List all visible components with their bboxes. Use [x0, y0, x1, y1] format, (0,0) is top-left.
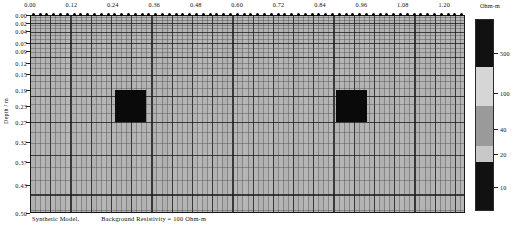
mesh-line-vertical [151, 15, 152, 213]
electrode-dot [399, 13, 402, 16]
mesh-line-vertical [293, 15, 294, 213]
mesh-cell-column [293, 15, 298, 213]
mesh-cell-column [182, 15, 187, 213]
mesh-line-vertical [379, 15, 380, 213]
mesh-line-vertical [50, 15, 51, 213]
mesh-line-vertical [384, 15, 385, 213]
mesh-line-vertical [187, 15, 188, 213]
mesh-line-vertical [96, 15, 97, 213]
mesh-line-vertical [217, 15, 218, 213]
mesh-cell-column [404, 15, 409, 213]
mesh-cell-column [460, 15, 465, 213]
mesh-cell-column [278, 15, 283, 213]
electrode-dot [66, 13, 69, 16]
mesh-cell-column [222, 15, 227, 213]
mesh-cell-column [207, 15, 212, 213]
mesh-line-vertical [106, 15, 107, 213]
mesh-cell-column [253, 15, 258, 213]
mesh-cell-column [81, 15, 86, 213]
colorbar-segment [476, 67, 493, 107]
electrode-dot [413, 13, 416, 16]
colorbar-tick-mark [494, 53, 498, 54]
mesh-cell-column [268, 15, 273, 213]
colorbar-segment [476, 20, 493, 67]
mesh-cell-column [192, 15, 197, 213]
x-axis-tick-labels: 0.000.120.240.360.480.600.720.840.961.08… [0, 0, 514, 14]
mesh-cell-column [91, 15, 96, 213]
electrode-dot [297, 13, 300, 16]
mesh-cell-column [96, 15, 101, 213]
mesh-line-vertical [440, 15, 441, 213]
mesh-line-vertical [278, 15, 279, 213]
mesh-line-vertical [207, 15, 208, 213]
mesh-cell-column [419, 15, 424, 213]
x-tick-label: 0.36 [148, 1, 160, 8]
mesh-cell-column [156, 15, 161, 213]
mesh-line-vertical [81, 15, 82, 213]
mesh-line-horizontal [30, 122, 465, 123]
mesh-cell-column [258, 15, 263, 213]
mesh-line-horizontal [30, 23, 465, 24]
mesh-cell-column [425, 15, 430, 213]
mesh-line-horizontal [30, 81, 465, 82]
mesh-line-horizontal [30, 57, 465, 58]
mesh-line-vertical [86, 15, 87, 213]
electrode-dot [338, 13, 341, 16]
x-tick-label: 0.96 [356, 1, 368, 8]
electrode-dot [433, 13, 436, 16]
mesh-line-vertical [414, 15, 415, 213]
mesh-line-horizontal [30, 17, 465, 18]
mesh-cell-column [435, 15, 440, 213]
mesh-line-vertical [369, 15, 370, 213]
mesh-cell-column [151, 15, 156, 213]
mesh-line-vertical [263, 15, 264, 213]
mesh-line-vertical [308, 15, 309, 213]
y-tick-mark [26, 213, 30, 214]
mesh-cell-column [35, 15, 40, 213]
mesh-cell-column [384, 15, 389, 213]
mesh-line-vertical [328, 15, 329, 213]
mesh-line-vertical [273, 15, 274, 213]
mesh-cell-column [379, 15, 384, 213]
colorbar-tick-label: 20 [500, 151, 507, 158]
mesh-cell-column [197, 15, 202, 213]
electrode-dot [100, 13, 103, 16]
mesh-line-vertical [30, 15, 31, 213]
mesh-line-horizontal [30, 32, 465, 33]
electrode-dot [73, 13, 76, 16]
mesh-line-vertical [232, 15, 233, 213]
mesh-line-vertical [101, 15, 102, 213]
mesh-line-vertical [91, 15, 92, 213]
colorbar-tick-mark [494, 93, 498, 94]
x-tick-label: 0.24 [107, 1, 119, 8]
mesh-line-horizontal [30, 210, 465, 211]
electrode-dot [406, 13, 409, 16]
electrode-dot [311, 13, 314, 16]
mesh-line-vertical [374, 15, 375, 213]
mesh-line-vertical [455, 15, 456, 213]
mesh-line-horizontal [30, 48, 465, 49]
electrode-dot [32, 13, 35, 16]
mesh-line-vertical [288, 15, 289, 213]
mesh-cell-column [450, 15, 455, 213]
mesh-cell-column [70, 15, 75, 213]
colorbar-tick-label: 500 [500, 49, 510, 56]
mesh-cell-column [313, 15, 318, 213]
mesh-cell-column [40, 15, 45, 213]
electrode-dot [107, 13, 110, 16]
caption-model-label: Synthetic Model, [32, 215, 79, 222]
mesh-line-vertical [167, 15, 168, 213]
mesh-line-vertical [389, 15, 390, 213]
mesh-cell-column [202, 15, 207, 213]
electrode-dot [236, 13, 239, 16]
colorbar-title: Ohm-m [470, 2, 510, 9]
mesh-line-vertical [258, 15, 259, 213]
mesh-line-vertical [303, 15, 304, 213]
mesh-line-vertical [182, 15, 183, 213]
mesh-line-vertical [76, 15, 77, 213]
mesh-line-vertical [242, 15, 243, 213]
mesh-line-vertical [450, 15, 451, 213]
x-tick-label: 0.60 [231, 1, 243, 8]
mesh-line-horizontal [30, 75, 465, 76]
mesh-cell-column [146, 15, 151, 213]
